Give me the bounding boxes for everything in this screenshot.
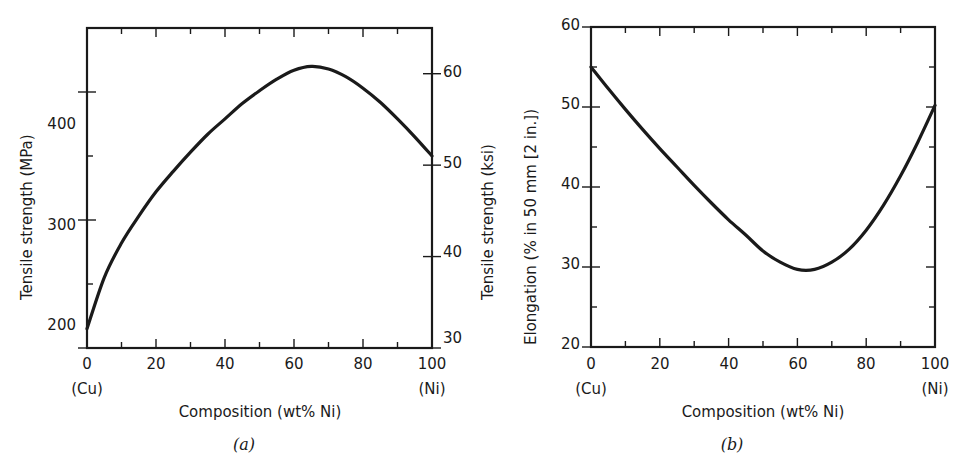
panel-b-yaxis-left-title: Elongation (% in 50 mm [2 in.])	[524, 109, 539, 345]
panel-a-endpoint-ni: (Ni)	[407, 382, 457, 397]
panel-a-xtick-80: 80	[343, 357, 383, 372]
panel-b-xtick-0: 0	[571, 357, 611, 372]
panel-a-tensile-strength: 200 300 400 30 40 50 60 0 20 40 60 80 10…	[0, 0, 488, 469]
panel-a-ytick-ksi-40: 40	[443, 245, 462, 260]
panel-b-elongation: 20 30 40 50 60 0 20 40 60 80 100 (Cu) (N…	[488, 0, 976, 469]
panel-a-plot	[0, 0, 488, 469]
panel-a-xtick-60: 60	[274, 357, 314, 372]
panel-b-xtick-100: 100	[915, 357, 955, 372]
panel-a-endpoint-cu: (Cu)	[62, 382, 112, 397]
panel-b-xtick-20: 20	[640, 357, 680, 372]
panel-a-ytick-400: 400	[28, 117, 76, 132]
panel-a-xtick-0: 0	[67, 357, 107, 372]
panel-b-ytick-60: 60	[532, 18, 580, 33]
panel-b-endpoint-ni: (Ni)	[910, 382, 960, 397]
panel-b-xtick-80: 80	[846, 357, 886, 372]
panel-a-xtick-100: 100	[412, 357, 452, 372]
figure-root: 200 300 400 30 40 50 60 0 20 40 60 80 10…	[0, 0, 976, 469]
panel-b-xtick-40: 40	[709, 357, 749, 372]
panel-b-xaxis-title: Composition (wt% Ni)	[623, 405, 903, 420]
panel-a-ytick-ksi-50: 50	[443, 156, 462, 171]
panel-a-yaxis-left-title: Tensile strength (MPa)	[20, 134, 35, 300]
panel-b-xtick-60: 60	[778, 357, 818, 372]
panel-a-sublabel: (a)	[233, 437, 255, 453]
panel-a-ytick-ksi-30: 30	[443, 331, 462, 346]
panel-b-endpoint-cu: (Cu)	[566, 382, 616, 397]
panel-b-sublabel: (b)	[721, 437, 744, 453]
panel-a-ytick-200: 200	[28, 318, 76, 333]
panel-b-plot	[488, 0, 976, 469]
panel-a-xtick-40: 40	[205, 357, 245, 372]
panel-a-xtick-20: 20	[136, 357, 176, 372]
panel-a-xaxis-title: Composition (wt% Ni)	[120, 405, 400, 420]
panel-a-ytick-ksi-60: 60	[443, 65, 462, 80]
